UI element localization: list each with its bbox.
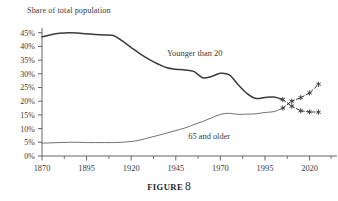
x-axis-tick-group: 1870189519201945197019952020	[34, 156, 331, 173]
y-axis-tick-label: 10%	[20, 125, 35, 134]
figure-caption-number: 8	[185, 180, 191, 192]
series-annotation-label: Younger than 20	[167, 49, 222, 58]
x-axis-tick-label: 1970	[212, 164, 229, 173]
series-marker-asterisk	[290, 99, 295, 104]
x-axis-tick-label: 1920	[123, 164, 140, 173]
chart-plot-area: 0%5%10%15%20%25%30%35%40%45% 18701895192…	[0, 0, 338, 178]
annotation-group: Younger than 2065 and older	[167, 49, 230, 141]
x-axis-tick-label: 1945	[167, 164, 184, 173]
y-axis-tick-label: 35%	[20, 56, 35, 65]
x-axis-tick-label: 1995	[257, 164, 274, 173]
x-axis-tick-label: 1870	[34, 164, 51, 173]
x-axis-tick-label: 1895	[78, 164, 95, 173]
y-axis-tick-label: 20%	[20, 97, 35, 106]
series-line	[42, 33, 283, 100]
series-annotation-label: 65 and older	[188, 132, 230, 141]
series-marker-asterisk	[298, 95, 303, 100]
y-axis-tick-label: 15%	[20, 111, 35, 120]
series-line	[42, 108, 283, 143]
series-marker-asterisk	[290, 104, 295, 109]
y-axis-tick-label: 5%	[24, 138, 35, 147]
y-axis-tick-label: 30%	[20, 70, 35, 79]
y-axis-tick-label: 45%	[20, 29, 35, 38]
y-axis-tick-group: 0%5%10%15%20%25%30%35%40%45%	[20, 29, 42, 161]
x-axis-tick-label: 2020	[301, 164, 318, 173]
figure-caption-word: FIGURE	[147, 182, 183, 192]
y-axis-tick-label: 0%	[24, 152, 35, 161]
y-axis-tick-label: 25%	[20, 83, 35, 92]
figure-caption: FIGURE8	[0, 180, 338, 192]
series-marker-group	[281, 82, 321, 115]
figure-container: Share of total population 0%5%10%15%20%2…	[0, 0, 338, 201]
y-axis-tick-label: 40%	[20, 42, 35, 51]
